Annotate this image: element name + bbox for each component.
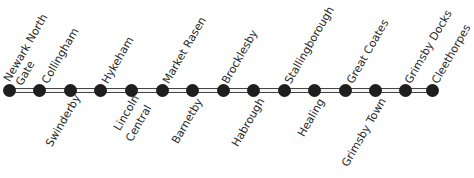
station-dot-market-rasen <box>156 84 169 97</box>
station-dot-cleethorpes <box>426 84 439 97</box>
station-dot-collingham <box>33 84 46 97</box>
station-dot-stallingborough <box>278 84 291 97</box>
station-label-swinderby: Swinderby <box>44 93 83 149</box>
station-label-barnetby: Barnetby <box>170 97 205 146</box>
station-label-collingham: Collingham <box>40 26 81 86</box>
station-label-brocklesby: Brocklesby <box>220 28 260 86</box>
station-label-healing: Healing <box>296 97 327 139</box>
station-dot-barnetby <box>186 84 199 97</box>
station-dot-newark-north-gate <box>3 84 16 97</box>
station-dot-hykeham <box>94 84 107 97</box>
station-dot-great-coates <box>339 84 352 97</box>
station-label-hykeham: Hykeham <box>100 35 136 86</box>
station-dot-brocklesby <box>217 84 230 97</box>
station-label-market-rasen: Market Rasen <box>161 15 209 86</box>
station-dot-grimsby-docks <box>399 84 412 97</box>
station-label-grimsby-town: Grimsby Town <box>340 96 389 169</box>
station-label-habrough: Habrough <box>230 96 267 149</box>
station-dot-grimsby-town <box>369 84 382 97</box>
station-label-great-coates: Great Coates <box>345 18 391 86</box>
station-dot-healing <box>308 84 321 97</box>
station-label-stallingborough: Stallingborough <box>283 5 337 86</box>
station-dot-habrough <box>247 84 260 97</box>
